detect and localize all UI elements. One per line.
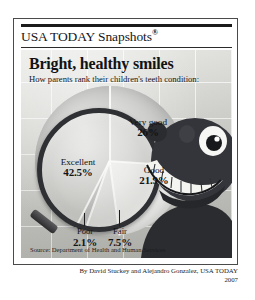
pie-label-poor-name: Poor [68,226,102,236]
pie-label-very-good: Very good 26% [117,117,179,137]
pie-label-good-value: 21.9% [129,175,179,185]
pie-label-good: Good 21.9% [129,165,179,185]
byline-credit: By David Stuckey and Alejandro Gonzalez,… [80,267,238,274]
pie-label-very-good-value: 26% [117,127,179,137]
pie-leader-line-poor [84,213,85,226]
snapshot-card: USA TODAY Snapshots® Bright, healthy smi… [13,18,238,265]
pie-label-excellent-value: 42.5% [47,167,109,177]
byline: By David Stuckey and Alejandro Gonzalez,… [13,266,238,284]
infographic-poster: Bright, healthy smiles How parents rank … [21,50,232,258]
page-title: Bright, healthy smiles [29,55,225,73]
page-subtitle: How parents rank their children's teeth … [29,74,225,84]
source-note: Source: Department of Health and Human S… [30,246,166,253]
pie-label-fair: Fair 7.5% [103,226,137,248]
masthead: USA TODAY Snapshots® [21,24,232,49]
byline-year: 2007 [13,275,238,284]
pie-label-poor: Poor 2.1% [68,226,102,248]
registered-mark-icon: ® [152,28,158,37]
masthead-brand: USA TODAY Snapshots [21,29,152,44]
headline-block: Bright, healthy smiles How parents rank … [29,55,225,84]
masthead-title: USA TODAY Snapshots® [21,28,158,45]
pie-label-fair-name: Fair [103,226,137,236]
pie-leader-line-fair [119,210,120,226]
masthead-top-rule [21,24,232,27]
masthead-bottom-rule [21,47,232,48]
snapshot-page: USA TODAY Snapshots® Bright, healthy smi… [0,0,255,300]
pie-label-excellent: Excellent 42.5% [47,157,109,177]
